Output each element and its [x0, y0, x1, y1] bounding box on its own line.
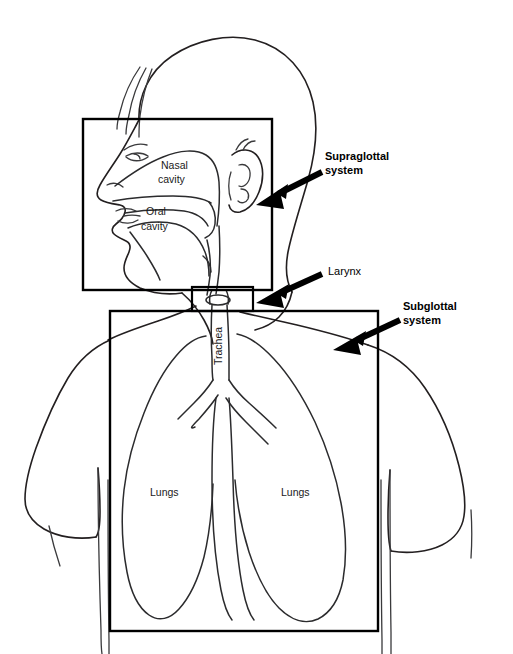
label-supraglottal-line1: Supraglottal: [325, 150, 389, 162]
label-oral-cavity-line1: Oral: [146, 205, 166, 217]
label-lung-right: Lungs: [281, 486, 310, 498]
label-nasal-cavity-line2: cavity: [158, 173, 186, 185]
anatomy-illustration: Supraglottal system Larynx Subglottal sy…: [0, 0, 513, 654]
label-larynx: Larynx: [328, 265, 362, 277]
label-lung-left: Lungs: [150, 486, 179, 498]
canvas-background: [0, 0, 513, 654]
label-nasal-cavity-line1: Nasal: [161, 159, 188, 171]
label-subglottal-line2: system: [403, 314, 441, 326]
label-trachea: Trachea: [212, 327, 224, 365]
label-supraglottal-line2: system: [325, 164, 363, 176]
label-oral-cavity-line2: cavity: [141, 220, 169, 232]
anatomy-diagram: Supraglottal system Larynx Subglottal sy…: [0, 0, 513, 654]
label-subglottal-line1: Subglottal: [403, 300, 457, 312]
